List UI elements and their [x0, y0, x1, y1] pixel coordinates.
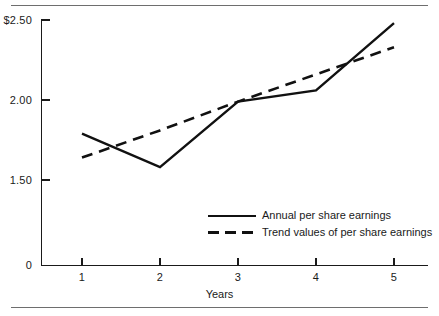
ytick-label-150: 1.50	[0, 175, 32, 186]
xtick-label-2: 2	[145, 272, 175, 283]
legend-item-trend: Trend values of per share earnings	[206, 226, 416, 243]
chart-figure: $2.50 2.00 1.50 0 1 2 3 4 5 Years Annual…	[0, 0, 439, 316]
y-axis-ticks	[41, 20, 50, 180]
xtick-label-3: 3	[223, 272, 253, 283]
legend-label-trend: Trend values of per share earnings	[262, 226, 432, 239]
series-line-annual	[82, 23, 394, 167]
xtick-label-1: 1	[67, 272, 97, 283]
xtick-label-4: 4	[301, 272, 331, 283]
x-axis-title: Years	[0, 288, 439, 300]
legend-swatch-solid-line	[208, 215, 256, 217]
chart-legend: Annual per share earnings Trend values o…	[206, 209, 416, 243]
legend-item-annual: Annual per share earnings	[206, 209, 416, 226]
ytick-label-zero: 0	[0, 260, 32, 271]
ytick-label-200: 2.00	[0, 95, 32, 106]
plot-area	[0, 0, 439, 316]
ytick-label-250: $2.50	[0, 15, 32, 26]
legend-label-annual: Annual per share earnings	[262, 209, 391, 222]
legend-swatch-dashed-line	[208, 231, 256, 234]
xtick-label-5: 5	[379, 272, 409, 283]
